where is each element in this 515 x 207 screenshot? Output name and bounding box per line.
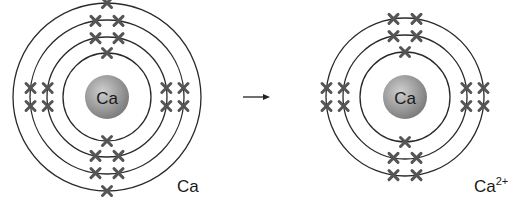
arrow-head-icon [263,94,270,100]
calcium-ionization-diagram: Ca Ca Ca Ca2+ [0,0,515,207]
ion-caption-ca2plus: Ca2+ [474,175,508,196]
reaction-arrow [243,94,270,100]
caption-text: Ca [474,177,496,196]
nucleus-label: Ca [394,89,416,108]
atom-caption-ca: Ca [177,177,199,196]
calcium-atom: Ca [13,0,201,196]
caption-text: Ca [177,177,199,196]
calcium-ion: Ca [322,14,488,179]
charge-superscript: 2+ [496,175,509,187]
electron-cross-icon [103,0,112,8]
nucleus-label: Ca [96,89,118,108]
